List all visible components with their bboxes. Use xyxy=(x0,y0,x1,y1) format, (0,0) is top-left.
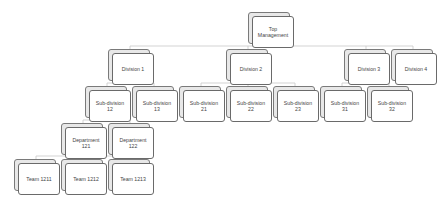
node-label: Sub-division 32 xyxy=(371,90,413,122)
node-label: Team 1213 xyxy=(112,163,154,195)
node-label: Sub-division 12 xyxy=(89,90,131,122)
node-label: Division 2 xyxy=(230,53,272,85)
node-label: Sub-division 13 xyxy=(136,90,178,122)
node-label: Division 3 xyxy=(348,53,390,85)
node-label: Sub-division 23 xyxy=(277,90,319,122)
node-label: Sub-division 22 xyxy=(230,90,272,122)
node-label: Team 1212 xyxy=(65,163,107,195)
org-chart: Top ManagementDivision 1Division 2Divisi… xyxy=(0,0,447,197)
node-label: Sub-division 21 xyxy=(183,90,225,122)
node-label: Department 122 xyxy=(112,127,154,159)
node-label: Top Management xyxy=(252,16,294,48)
node-label: Department 121 xyxy=(65,127,107,159)
node-label: Sub-division 31 xyxy=(324,90,366,122)
node-label: Division 1 xyxy=(112,53,154,85)
node-label: Team 1211 xyxy=(18,163,60,195)
node-label: Division 4 xyxy=(395,53,437,85)
